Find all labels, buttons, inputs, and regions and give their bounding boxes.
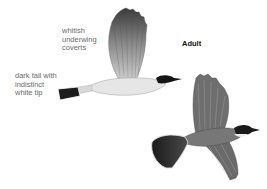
tail-annotation: dark tail with indistinct white tip — [15, 72, 57, 98]
age-label: Adult — [182, 39, 201, 48]
coverts-annotation: whitish underwing coverts — [62, 27, 97, 53]
kingbird-top-view — [152, 74, 260, 180]
kingbird-side-view — [58, 8, 182, 100]
